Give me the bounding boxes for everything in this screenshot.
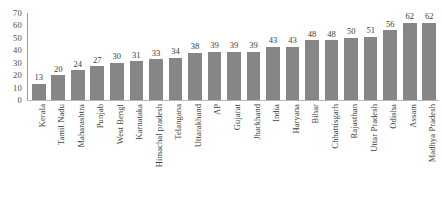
bar	[227, 52, 241, 100]
y-axis-tick: 40	[0, 46, 22, 55]
x-label-slot: India	[263, 102, 283, 197]
bar-value-label: 43	[264, 36, 282, 45]
bar-value-label: 43	[284, 36, 302, 45]
bar-value-label: 39	[225, 41, 243, 50]
x-axis-tick-label: Uttarakhand	[193, 104, 202, 147]
plot-area: 1320242730313334383939394343484850515662…	[29, 13, 439, 100]
bar-value-label: 13	[30, 73, 48, 82]
x-label-slot: Assam	[400, 102, 420, 197]
bar-value-label: 62	[420, 12, 438, 21]
bar-slot: 51	[361, 13, 381, 100]
bar-value-label: 39	[245, 41, 263, 50]
bar	[364, 37, 378, 100]
x-label-slot: Maharashtra	[68, 102, 88, 197]
x-axis-tick-label: Uttar Pradesh	[369, 104, 378, 152]
x-label-slot: Haryana	[283, 102, 303, 197]
bar-slot: 24	[68, 13, 88, 100]
bar-slot: 56	[380, 13, 400, 100]
bar	[403, 23, 417, 100]
bar-slot: 48	[322, 13, 342, 100]
x-label-slot: Uttarakhand	[185, 102, 205, 197]
x-label-slot: Kerala	[29, 102, 49, 197]
bar	[188, 53, 202, 100]
x-axis-tick-label: Karnataka	[135, 104, 144, 140]
x-axis-tick-label: Himachal pradesh	[154, 104, 163, 167]
bar	[305, 40, 319, 100]
x-axis-tick-label: Kerala	[37, 104, 46, 127]
bar-value-label: 38	[186, 42, 204, 51]
x-axis-tick-label: Telangana	[174, 104, 183, 140]
y-axis-tick: 60	[0, 21, 22, 30]
x-axis-tick-label: West Bengl	[115, 104, 124, 144]
bar-slot: 31	[127, 13, 147, 100]
bar	[130, 61, 144, 100]
bar	[344, 38, 358, 100]
x-label-slot: Rajasthan	[341, 102, 361, 197]
bar	[110, 63, 124, 100]
y-axis-tick: 50	[0, 34, 22, 43]
bar-slot: 39	[205, 13, 225, 100]
x-label-slot: Telangana	[166, 102, 186, 197]
x-axis-tick-label: Bihar	[311, 104, 320, 123]
bar-slot: 13	[29, 13, 49, 100]
y-axis-tick: 0	[0, 96, 22, 105]
x-label-slot: Bihar	[302, 102, 322, 197]
x-axis-tick-label: Chhattisgarh	[330, 104, 339, 149]
y-axis-line	[27, 13, 28, 101]
x-label-slot: Himachal pradesh	[146, 102, 166, 197]
y-axis-tick: 30	[0, 59, 22, 68]
bar-slot: 33	[146, 13, 166, 100]
bar-slot: 38	[185, 13, 205, 100]
x-axis-tick-label: Jharkhand	[252, 104, 261, 140]
bar-value-label: 56	[381, 20, 399, 29]
bar	[286, 47, 300, 100]
y-axis-tick: 10	[0, 84, 22, 93]
bar-value-label: 50	[342, 27, 360, 36]
x-label-slot: Karnataka	[127, 102, 147, 197]
bar	[325, 40, 339, 100]
bar	[51, 75, 65, 100]
bar-slot: 43	[283, 13, 303, 100]
x-axis-tick-label: Odisha	[389, 104, 398, 129]
bar	[169, 58, 183, 100]
bar-value-label: 34	[166, 47, 184, 56]
x-axis-tick-label: Haryana	[291, 104, 300, 134]
bar-slot: 39	[244, 13, 264, 100]
bar-value-label: 39	[205, 41, 223, 50]
bar-value-label: 24	[69, 60, 87, 69]
x-label-slot: Gujarat	[224, 102, 244, 197]
bar-slot: 62	[419, 13, 439, 100]
x-axis-tick-label: Gujarat	[232, 104, 241, 130]
bar-value-label: 48	[303, 30, 321, 39]
bar-slot: 43	[263, 13, 283, 100]
bar	[90, 66, 104, 100]
x-axis-tick-label: Maharashtra	[76, 104, 85, 148]
x-label-slot: Chhattisgarh	[322, 102, 342, 197]
x-axis-tick-label: India	[272, 104, 281, 122]
x-label-slot: Uttar Pradesh	[361, 102, 381, 197]
bar-value-label: 30	[108, 52, 126, 61]
bar-value-label: 20	[49, 65, 67, 74]
bar	[383, 30, 397, 100]
x-axis-labels: KeralaTamil NaduMaharashtraPunjabWest Be…	[29, 102, 439, 197]
x-label-slot: Odisha	[380, 102, 400, 197]
bar-slot: 20	[49, 13, 69, 100]
bar-slot: 30	[107, 13, 127, 100]
x-label-slot: West Bengl	[107, 102, 127, 197]
bar-slot: 50	[341, 13, 361, 100]
bar	[149, 59, 163, 100]
bar-slot: 27	[88, 13, 108, 100]
y-axis-tick: 20	[0, 71, 22, 80]
bar	[266, 47, 280, 100]
x-axis-tick-label: AP	[213, 104, 222, 115]
bar	[422, 23, 436, 100]
bar	[71, 70, 85, 100]
bar	[32, 84, 46, 100]
x-axis-tick-label: Madhya Pradesh	[428, 104, 437, 162]
bar-value-label: 51	[362, 26, 380, 35]
x-label-slot: Madhya Pradesh	[419, 102, 439, 197]
bar-slot: 39	[224, 13, 244, 100]
bar-slot: 34	[166, 13, 186, 100]
x-label-slot: Tamil Nadu	[49, 102, 69, 197]
bar-slot: 62	[400, 13, 420, 100]
